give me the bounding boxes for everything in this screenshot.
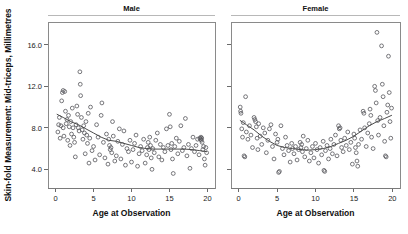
- y-tick-label: 8.0: [32, 124, 42, 133]
- data-point: [251, 146, 255, 150]
- data-point: [148, 135, 152, 139]
- data-point: [263, 131, 267, 135]
- data-point: [187, 143, 191, 147]
- data-point: [390, 106, 394, 110]
- data-point: [89, 105, 93, 109]
- x-tick-label: 10: [127, 194, 135, 203]
- data-point: [290, 141, 294, 145]
- data-point: [119, 157, 123, 161]
- data-point: [346, 130, 350, 134]
- data-point: [67, 125, 71, 129]
- data-point: [137, 152, 141, 156]
- data-point: [155, 131, 159, 135]
- data-point: [83, 152, 87, 156]
- data-point: [314, 141, 318, 145]
- data-point: [312, 156, 316, 160]
- data-point: [142, 137, 146, 141]
- data-point: [331, 152, 335, 156]
- x-axis-title: Age at Observation: [93, 208, 171, 218]
- data-point: [100, 101, 104, 105]
- data-point: [294, 145, 298, 149]
- data-point: [185, 154, 189, 158]
- data-point: [111, 134, 115, 138]
- plot-canvas: Skin-fold Measurement: Mid-triceps, Mill…: [0, 0, 408, 234]
- data-point: [244, 95, 248, 99]
- data-point: [269, 123, 273, 127]
- data-point: [114, 154, 118, 158]
- data-point: [76, 112, 80, 116]
- data-point: [105, 132, 109, 136]
- data-point: [166, 144, 170, 148]
- data-point: [62, 134, 66, 138]
- data-point: [256, 148, 260, 152]
- data-point: [197, 153, 201, 157]
- data-point: [357, 143, 361, 147]
- data-point: [347, 148, 351, 152]
- x-axis-title: Age at Observation: [277, 208, 355, 218]
- data-point: [282, 153, 286, 157]
- data-point: [128, 138, 132, 142]
- data-point: [67, 113, 71, 117]
- data-point: [388, 120, 392, 124]
- data-point: [179, 124, 183, 128]
- data-point: [366, 131, 370, 135]
- data-point: [131, 148, 135, 152]
- data-point: [354, 146, 358, 150]
- data-point: [102, 140, 106, 144]
- data-point: [90, 149, 94, 153]
- data-point: [327, 157, 331, 161]
- data-point: [311, 145, 315, 149]
- data-point: [321, 139, 325, 143]
- data-point: [79, 94, 83, 98]
- data-point: [93, 158, 97, 162]
- data-point: [177, 139, 181, 143]
- data-point: [320, 153, 324, 157]
- data-point: [387, 54, 391, 58]
- data-point: [288, 160, 292, 164]
- data-point: [70, 106, 74, 110]
- data-point: [271, 145, 275, 149]
- data-point: [150, 167, 154, 171]
- data-point: [360, 137, 364, 141]
- data-point: [87, 161, 91, 165]
- data-point: [340, 146, 344, 150]
- data-point: [374, 89, 378, 93]
- data-point: [98, 153, 102, 157]
- data-point: [176, 152, 180, 156]
- x-tick-label: 10: [311, 194, 319, 203]
- data-point: [287, 149, 291, 153]
- data-point: [344, 144, 348, 148]
- data-point: [103, 156, 107, 160]
- data-point: [268, 127, 272, 131]
- data-point: [168, 112, 172, 116]
- data-point: [371, 147, 375, 151]
- data-point: [349, 140, 353, 144]
- data-point: [278, 170, 282, 174]
- data-point: [92, 145, 96, 149]
- data-point: [122, 129, 126, 133]
- data-point: [350, 162, 354, 166]
- data-point: [158, 143, 162, 147]
- data-point: [130, 160, 134, 164]
- data-point: [110, 151, 114, 155]
- data-point: [143, 161, 147, 165]
- data-point: [124, 163, 128, 167]
- data-point: [334, 133, 338, 137]
- scatter-points: [238, 30, 393, 174]
- data-point: [149, 156, 153, 160]
- x-tick-label: 15: [350, 194, 358, 203]
- data-point: [373, 84, 377, 88]
- data-point: [306, 138, 310, 142]
- data-point: [370, 135, 374, 139]
- data-point: [244, 130, 248, 134]
- data-point: [355, 159, 359, 163]
- data-point: [86, 111, 90, 115]
- data-point: [191, 135, 195, 139]
- x-tick-label: 20: [388, 194, 396, 203]
- data-point: [72, 135, 76, 139]
- data-point: [168, 125, 172, 129]
- data-point: [380, 44, 384, 48]
- data-point: [389, 136, 393, 140]
- data-point: [66, 138, 70, 142]
- data-point: [86, 141, 90, 145]
